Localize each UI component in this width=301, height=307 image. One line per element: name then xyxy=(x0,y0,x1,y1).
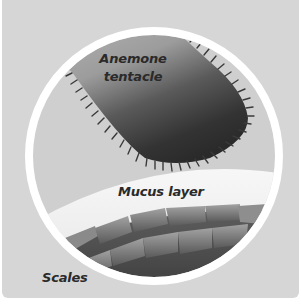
tentacle-mucus-illustration xyxy=(0,0,301,307)
tentacle-label-line1: Anemone xyxy=(99,50,167,67)
mucus-layer-label: Mucus layer xyxy=(118,183,204,200)
scales-label: Scales xyxy=(42,269,88,286)
tentacle-label-line2: tentacle xyxy=(99,68,167,85)
